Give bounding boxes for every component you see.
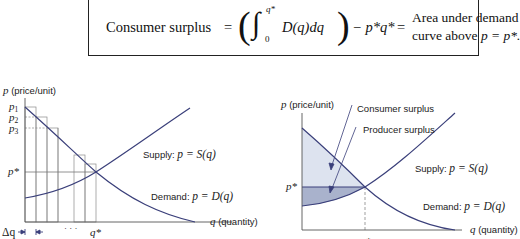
delta-q-arrows xyxy=(18,229,43,235)
riemann-rectangles xyxy=(25,107,96,222)
left-y-axis-label: p (price/unit) xyxy=(2,84,56,96)
consumer-surplus-label: Consumer surplus xyxy=(357,103,434,114)
right-x-axis-label: q (quantity) xyxy=(470,223,518,235)
right-demand-label: Demand: p = D(q) xyxy=(423,200,505,213)
label-qstar-left: q* xyxy=(90,226,102,238)
consumer-surplus-arrow xyxy=(331,105,352,168)
label-qstar-right: q* xyxy=(360,235,372,239)
label-dots: · · · xyxy=(64,223,78,233)
label-pstar-left: p* xyxy=(7,165,20,177)
riemann-rect xyxy=(47,128,58,222)
right-chart: p (price/unit) Consumer surplus Producer… xyxy=(280,98,518,239)
label-delta-q: Δq xyxy=(2,226,15,239)
right-y-axis-label: p (price/unit) xyxy=(280,98,334,110)
riemann-rect xyxy=(74,155,85,222)
riemann-rect xyxy=(25,107,36,222)
left-demand-curve xyxy=(25,107,195,222)
left-supply-label: Supply: p = S(q) xyxy=(143,148,216,161)
left-chart: p (price/unit) p1 p2 p3 p* q* Δq · · · S… xyxy=(2,84,258,239)
label-pstar-right: p* xyxy=(285,180,298,192)
left-demand-label: Demand: p = D(q) xyxy=(151,190,233,203)
left-x-axis-label: q (quantity) xyxy=(210,215,258,227)
riemann-rect xyxy=(36,117,47,222)
right-supply-label: Supply: p = S(q) xyxy=(415,162,488,175)
producer-surplus-region xyxy=(302,187,365,206)
producer-surplus-label: Producer surplus xyxy=(363,124,435,135)
riemann-rect xyxy=(58,128,74,222)
